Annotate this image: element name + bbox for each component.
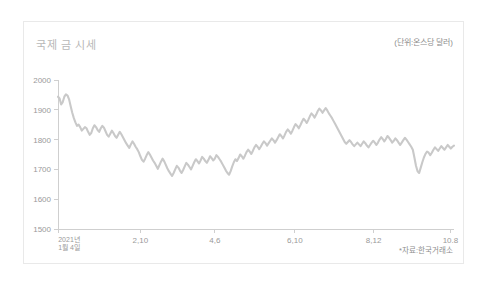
x-tick-label: 2,10 bbox=[133, 236, 149, 245]
x-axis: 2021년1월 4일2,104,66,108,1210.8 bbox=[58, 229, 459, 251]
y-tick-label: 1600 bbox=[33, 195, 51, 204]
x-tick-label: 4,6 bbox=[209, 236, 221, 245]
x-tick-label: 8,12 bbox=[366, 236, 382, 245]
x-tick-label: 1월 4일 bbox=[58, 243, 80, 251]
x-tick-label: 6,10 bbox=[287, 236, 303, 245]
x-tick-label: 10.8 bbox=[443, 236, 459, 245]
y-tick-label: 1800 bbox=[33, 136, 51, 145]
y-tick-label: 1700 bbox=[33, 165, 51, 174]
series-line-0 bbox=[58, 94, 454, 176]
plot-area: 150016001700180019002000 2021년1월 4일2,104… bbox=[24, 22, 465, 265]
data-series-group bbox=[58, 94, 454, 176]
y-tick-label: 1900 bbox=[33, 106, 51, 115]
chart-card: 국제 금 시세 (단위:온스당 달러) *자료:한국거래소 1500160017… bbox=[23, 21, 464, 264]
y-tick-label: 2000 bbox=[33, 76, 51, 85]
x-tick-label: 2021년 bbox=[58, 235, 80, 243]
line-chart-svg: 150016001700180019002000 2021년1월 4일2,104… bbox=[24, 22, 465, 265]
y-tick-label: 1500 bbox=[33, 225, 51, 234]
y-axis: 150016001700180019002000 bbox=[33, 76, 58, 234]
